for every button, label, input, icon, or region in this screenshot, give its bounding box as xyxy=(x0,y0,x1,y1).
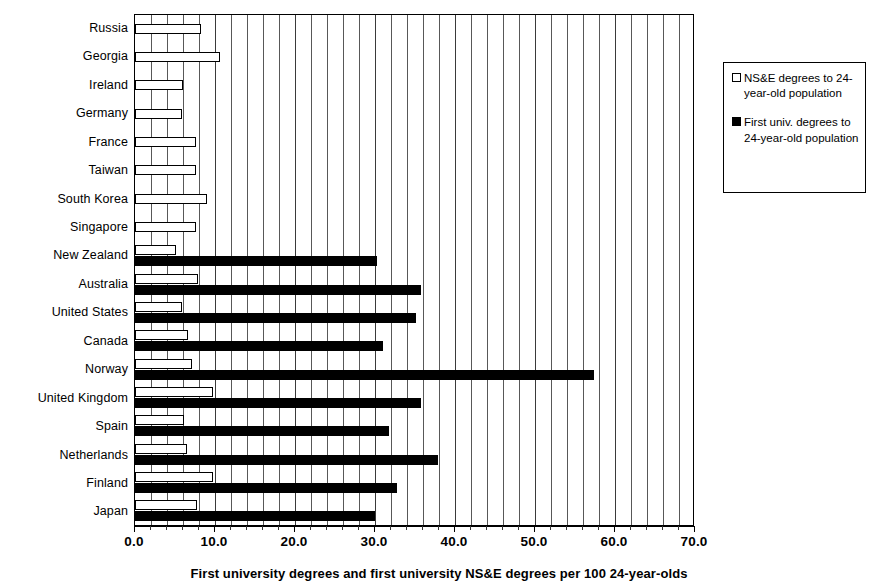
x-tick-label: 50.0 xyxy=(520,534,547,549)
x-tick-minor xyxy=(598,526,599,530)
bar-nse-degrees xyxy=(135,274,198,284)
bar-row xyxy=(135,72,693,100)
x-tick-major xyxy=(374,526,375,532)
x-tick-minor xyxy=(422,526,423,530)
bar-nse-degrees xyxy=(135,24,201,34)
bar-row xyxy=(135,468,693,496)
bar-row xyxy=(135,213,693,241)
bar-nse-degrees xyxy=(135,387,213,397)
bar-first-univ-degrees xyxy=(135,285,421,295)
x-tick-minor xyxy=(150,526,151,530)
legend-entry: First univ. degrees to 24-year-old popul… xyxy=(732,115,859,145)
y-axis-category-labels: RussiaGeorgiaIrelandGermanyFranceTaiwanS… xyxy=(10,14,132,526)
bar-row xyxy=(135,100,693,128)
bar-row xyxy=(135,355,693,383)
chart-caption: First university degrees and first unive… xyxy=(0,566,878,581)
y-axis-label: United Kingdom xyxy=(10,384,132,412)
x-tick-minor xyxy=(678,526,679,530)
bar-first-univ-degrees xyxy=(135,370,594,380)
bar-row xyxy=(135,497,693,525)
bar-nse-degrees xyxy=(135,302,182,312)
bar-row xyxy=(135,43,693,71)
y-axis-label: United States xyxy=(10,298,132,326)
bar-row xyxy=(135,383,693,411)
bar-first-univ-degrees xyxy=(135,256,377,266)
bar-row xyxy=(135,327,693,355)
bar-first-univ-degrees xyxy=(135,483,397,493)
bar-nse-degrees xyxy=(135,137,196,147)
bar-row xyxy=(135,298,693,326)
bar-nse-degrees xyxy=(135,165,196,175)
y-axis-label: South Korea xyxy=(10,185,132,213)
x-tick-minor xyxy=(342,526,343,530)
y-axis-label: Netherlands xyxy=(10,441,132,469)
x-tick-major xyxy=(694,526,695,532)
chart-legend: NS&E degrees to 24-year-old populationFi… xyxy=(723,62,866,193)
y-axis-label: Australia xyxy=(10,270,132,298)
bar-first-univ-degrees xyxy=(135,341,383,351)
x-tick-minor xyxy=(486,526,487,530)
bar-row xyxy=(135,15,693,43)
x-tick-minor xyxy=(662,526,663,530)
y-axis-label: Singapore xyxy=(10,213,132,241)
open-square-icon xyxy=(732,73,741,82)
x-tick-minor xyxy=(310,526,311,530)
bar-row xyxy=(135,440,693,468)
plot-area xyxy=(134,14,694,526)
x-tick-label: 0.0 xyxy=(124,534,143,549)
bar-nse-degrees xyxy=(135,472,213,482)
y-axis-label: Ireland xyxy=(10,71,132,99)
x-tick-major xyxy=(614,526,615,532)
filled-square-icon xyxy=(732,117,741,126)
bar-rows xyxy=(135,15,693,525)
bar-nse-degrees xyxy=(135,500,197,510)
y-axis-label: Canada xyxy=(10,327,132,355)
bar-row xyxy=(135,412,693,440)
bar-nse-degrees xyxy=(135,194,207,204)
x-tick-label: 20.0 xyxy=(280,534,307,549)
bar-nse-degrees xyxy=(135,444,187,454)
x-tick-label: 40.0 xyxy=(440,534,467,549)
x-tick-label: 60.0 xyxy=(600,534,627,549)
y-axis-label: New Zealand xyxy=(10,242,132,270)
bar-nse-degrees xyxy=(135,109,182,119)
bar-nse-degrees xyxy=(135,222,196,232)
bar-nse-degrees xyxy=(135,80,183,90)
x-tick-minor xyxy=(470,526,471,530)
bar-nse-degrees xyxy=(135,415,184,425)
bar-nse-degrees xyxy=(135,330,188,340)
x-tick-minor xyxy=(166,526,167,530)
x-tick-minor xyxy=(646,526,647,530)
legend-label: First univ. degrees to 24-year-old popul… xyxy=(744,115,859,145)
x-tick-minor xyxy=(246,526,247,530)
x-tick-label: 30.0 xyxy=(360,534,387,549)
bar-first-univ-degrees xyxy=(135,313,416,323)
x-tick-major xyxy=(454,526,455,532)
x-tick-minor xyxy=(518,526,519,530)
y-axis-label: Norway xyxy=(10,355,132,383)
bar-row xyxy=(135,270,693,298)
bar-first-univ-degrees xyxy=(135,455,438,465)
x-tick-minor xyxy=(406,526,407,530)
x-tick-minor xyxy=(438,526,439,530)
x-tick-minor xyxy=(198,526,199,530)
y-axis-label: Taiwan xyxy=(10,156,132,184)
bar-row xyxy=(135,157,693,185)
x-tick-minor xyxy=(502,526,503,530)
bar-first-univ-degrees xyxy=(135,511,375,521)
y-axis-label: Germany xyxy=(10,99,132,127)
bar-row xyxy=(135,242,693,270)
legend-label: NS&E degrees to 24-year-old population xyxy=(744,71,859,101)
y-axis-label: Finland xyxy=(10,469,132,497)
y-axis-label: Russia xyxy=(10,14,132,42)
x-tick-major xyxy=(534,526,535,532)
x-axis-line xyxy=(134,526,694,527)
x-tick-minor xyxy=(390,526,391,530)
x-tick-minor xyxy=(182,526,183,530)
bar-row xyxy=(135,128,693,156)
x-tick-minor xyxy=(550,526,551,530)
x-tick-minor xyxy=(358,526,359,530)
y-axis-label: France xyxy=(10,128,132,156)
bar-row xyxy=(135,185,693,213)
chart-figure: RussiaGeorgiaIrelandGermanyFranceTaiwanS… xyxy=(0,0,878,584)
